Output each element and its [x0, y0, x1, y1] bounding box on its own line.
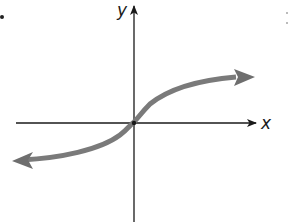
origin-point: [132, 121, 136, 125]
curve-arrowhead-right-icon: [234, 69, 255, 86]
y-axis-label: y: [117, 2, 127, 19]
edge-mark: [286, 22, 288, 24]
bullet-dot-icon: [0, 15, 4, 19]
edge-mark: [286, 12, 288, 14]
x-axis-label: x: [261, 115, 271, 132]
graph-canvas: [0, 0, 289, 222]
function-graph: y x: [0, 0, 289, 222]
